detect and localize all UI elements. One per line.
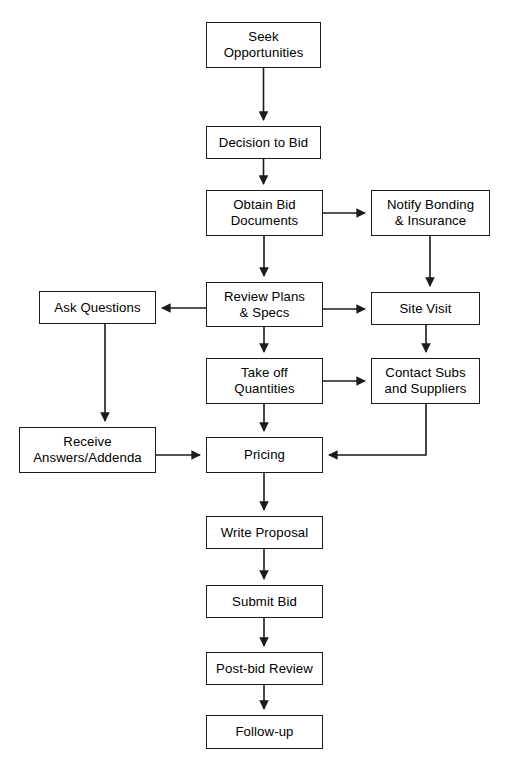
node-pricing[interactable]: Pricing (206, 437, 323, 473)
node-label-seek: Seek Opportunities (220, 29, 308, 61)
flowchart-diagram: Seek OpportunitiesDecision to BidObtain … (0, 0, 507, 776)
node-label-submit: Submit Bid (228, 594, 301, 610)
node-receive[interactable]: Receive Answers/Addenda (19, 427, 156, 473)
node-review[interactable]: Review Plans & Specs (206, 282, 323, 327)
node-label-ask: Ask Questions (50, 300, 144, 316)
node-label-takeoff: Take off Quantities (230, 365, 298, 397)
node-label-pricing: Pricing (240, 447, 289, 463)
node-seek[interactable]: Seek Opportunities (206, 22, 321, 68)
node-label-obtain: Obtain Bid Documents (227, 197, 303, 229)
node-ask[interactable]: Ask Questions (39, 291, 156, 324)
edge-contact-to-pricing (329, 404, 426, 455)
node-contact[interactable]: Contact Subs and Suppliers (371, 358, 480, 404)
node-sitevisit[interactable]: Site Visit (371, 292, 480, 325)
node-label-decision: Decision to Bid (215, 135, 312, 151)
node-takeoff[interactable]: Take off Quantities (206, 358, 323, 404)
node-submit[interactable]: Submit Bid (206, 585, 323, 618)
node-notify[interactable]: Notify Bonding & Insurance (371, 190, 490, 236)
node-label-receive: Receive Answers/Addenda (29, 434, 146, 466)
node-obtain[interactable]: Obtain Bid Documents (206, 190, 323, 236)
node-label-write: Write Proposal (217, 525, 313, 541)
node-label-sitevisit: Site Visit (395, 301, 455, 317)
node-label-postbid: Post-bid Review (212, 661, 317, 677)
node-write[interactable]: Write Proposal (206, 516, 323, 549)
node-label-notify: Notify Bonding & Insurance (383, 197, 478, 229)
node-followup[interactable]: Follow-up (206, 715, 323, 749)
node-label-followup: Follow-up (231, 724, 297, 740)
node-decision[interactable]: Decision to Bid (206, 126, 321, 159)
node-label-contact: Contact Subs and Suppliers (381, 365, 471, 397)
node-postbid[interactable]: Post-bid Review (206, 652, 323, 685)
node-label-review: Review Plans & Specs (220, 289, 309, 321)
